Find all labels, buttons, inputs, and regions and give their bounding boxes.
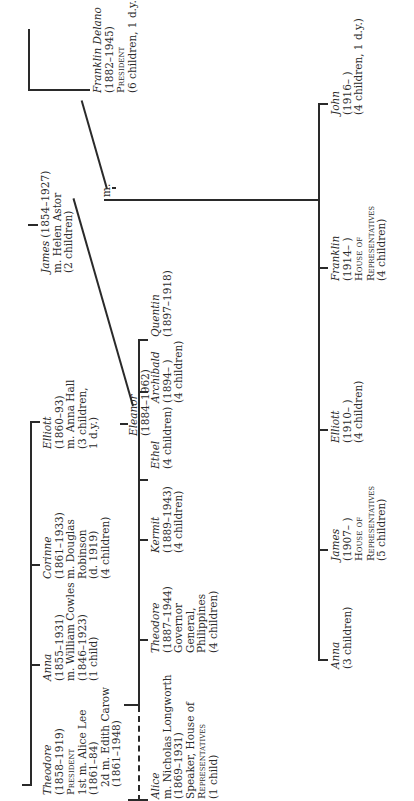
family-tree-page: Theodore (1858–1919) President 1st m. Al… [0, 0, 414, 801]
edith-descent [124, 704, 138, 706]
fdr-children-bar [318, 103, 320, 661]
node-anna-sr: Anna (1855–1931) m. William Cowles (1846… [42, 582, 100, 681]
theodore-children-bar [138, 341, 140, 706]
node-kermit: Kermit (1889–1943) (4 children) [150, 486, 185, 553]
marriage-label: m. [100, 184, 112, 197]
tick-ethel [138, 479, 148, 481]
alice-dashed-line [138, 706, 140, 801]
tick-kermit [138, 539, 148, 541]
tick-theodore-jr [138, 639, 148, 641]
node-archibald: Archibald (1894– ) (4 children) [150, 341, 185, 403]
node-james-sr: James (1854–1927) m. Helen Astor (2 chil… [40, 171, 75, 273]
node-elliott-sr: Elliott (1860–93) m. Anna Hall (3 childr… [42, 380, 100, 449]
tick-archibald [138, 391, 148, 393]
gen1-tick-corinne [30, 564, 40, 566]
gen1-tick-anna [30, 664, 40, 666]
gen1-tick-theodore [22, 784, 32, 786]
node-theodore-jr: Theodore (1887–1944) Governor General, P… [150, 586, 219, 653]
node-quentin: Quentin (1897–1918) [150, 270, 173, 337]
node-fdr: Franklin Delano (1882–1945) President (6… [92, 0, 138, 93]
node-anna-jr: Anna (3 children) [330, 607, 353, 669]
quentin-bracket [138, 339, 140, 341]
fdr-tick [28, 89, 90, 91]
tick-john [318, 103, 328, 105]
marriage-to-children [114, 187, 116, 189]
marriage-stem [104, 199, 318, 201]
node-ethel: Ethel (4 children) [150, 407, 173, 469]
node-john: John (1916– ) (4 children, 1 d.y.) [330, 18, 365, 115]
node-corinne: Corinne (1861–1933) m. Douglas Robinson … [42, 512, 111, 579]
node-theodore-sr: Theodore (1858–1919) President 1st m. Al… [42, 687, 123, 795]
gen1-tick-elliott [30, 421, 40, 423]
fdr-marriage-line [81, 100, 108, 189]
fdr-top-line [28, 29, 30, 91]
node-franklin-jr: Franklin (1914– ) House of Representativ… [330, 206, 388, 281]
node-james-jr: James (1907– ) House of Representatives … [330, 486, 388, 561]
james-sr-tick [28, 224, 38, 226]
node-elliott-jr: Elliott (1910– ) (4 children) [330, 381, 365, 443]
eleanor-marriage-line [73, 198, 134, 406]
tick-elliott-jr [318, 429, 328, 431]
tick-james-jr [318, 549, 328, 551]
tick-anna-jr [318, 659, 328, 661]
gen1-bar [30, 421, 32, 786]
tick-franklin-jr [318, 267, 328, 269]
node-alice: Alice m. Nicholas Longworth (1869–1931) … [150, 674, 219, 799]
